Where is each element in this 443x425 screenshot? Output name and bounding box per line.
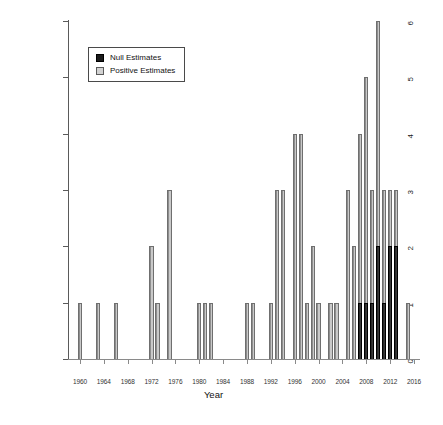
bar-positive-1975 xyxy=(167,190,171,359)
x-axis-tick-label: 1968 xyxy=(121,378,135,385)
x-axis-tick-label: 2008 xyxy=(359,378,373,385)
x-axis-tick-label: 1980 xyxy=(192,378,206,385)
bar-null-2008 xyxy=(364,303,368,359)
y-axis-tick-label: 3 xyxy=(407,190,415,194)
legend-item-null: Null Estimates xyxy=(96,53,175,63)
bar-positive-1989 xyxy=(251,303,255,359)
bar-null-2007 xyxy=(358,303,362,359)
legend-swatch-null-icon xyxy=(96,54,104,62)
y-axis-tick xyxy=(63,246,68,247)
bar-positive-1963 xyxy=(96,303,100,359)
x-axis-tick xyxy=(342,360,343,364)
bar-positive-2000 xyxy=(316,303,320,359)
x-axis-title: Year xyxy=(0,389,443,400)
x-axis-tick xyxy=(152,360,153,364)
x-axis-tick-label: 1960 xyxy=(73,378,87,385)
x-axis-tick-label: 1964 xyxy=(97,378,111,385)
legend-item-positive: Positive Estimates xyxy=(96,66,175,76)
legend: Null Estimates Positive Estimates xyxy=(88,47,185,82)
y-axis-line xyxy=(68,20,69,360)
legend-swatch-positive-icon xyxy=(96,67,104,75)
bar-positive-1994 xyxy=(281,190,285,359)
x-axis-tick xyxy=(271,360,272,364)
x-axis-title-text: Year xyxy=(204,389,223,400)
x-axis-tick-label: 1984 xyxy=(216,378,230,385)
bar-positive-2003 xyxy=(334,303,338,359)
x-axis-tick xyxy=(390,360,391,364)
x-axis-tick xyxy=(295,360,296,364)
bar-positive-1992 xyxy=(269,303,273,359)
bar-positive-1966 xyxy=(114,303,118,359)
bar-null-2010 xyxy=(376,246,380,359)
bar-positive-1982 xyxy=(209,303,213,359)
bar-positive-1999 xyxy=(311,246,315,359)
bar-positive-1993 xyxy=(275,190,279,359)
x-axis-tick xyxy=(366,360,367,364)
bar-null-2009 xyxy=(370,303,374,359)
y-axis-tick-label: 6 xyxy=(407,21,415,25)
x-axis-tick-label: 1988 xyxy=(240,378,254,385)
x-axis-tick-label: 1972 xyxy=(144,378,158,385)
bar-positive-2015 xyxy=(406,303,410,359)
x-axis-tick-label: 1996 xyxy=(288,378,302,385)
x-axis-tick xyxy=(128,360,129,364)
bar-positive-1988 xyxy=(245,303,249,359)
bar-positive-1981 xyxy=(203,303,207,359)
x-axis-tick xyxy=(175,360,176,364)
x-axis-tick xyxy=(319,360,320,364)
x-axis-tick-label: 2004 xyxy=(335,378,349,385)
x-axis-tick xyxy=(104,360,105,364)
x-axis-tick-label: 2012 xyxy=(383,378,397,385)
bar-positive-2005 xyxy=(346,190,350,359)
x-axis-tick xyxy=(414,360,415,364)
bar-positive-1972 xyxy=(149,246,153,359)
bar-positive-1973 xyxy=(155,303,159,359)
x-axis-tick-label: 1992 xyxy=(264,378,278,385)
y-axis-tick xyxy=(63,303,68,304)
bar-positive-2002 xyxy=(328,303,332,359)
bar-positive-1960 xyxy=(78,303,82,359)
bar-null-2013 xyxy=(394,246,398,359)
bar-positive-1996 xyxy=(293,134,297,359)
bar-null-2011 xyxy=(382,303,386,359)
y-axis-tick xyxy=(63,190,68,191)
x-axis-tick-label: 1976 xyxy=(168,378,182,385)
x-axis-tick xyxy=(199,360,200,364)
bar-positive-1980 xyxy=(197,303,201,359)
bar-null-2012 xyxy=(388,246,392,359)
y-axis-tick xyxy=(63,77,68,78)
bar-positive-1998 xyxy=(305,303,309,359)
y-axis-tick-label: 5 xyxy=(407,77,415,81)
y-axis-tick-label: 2 xyxy=(407,246,415,250)
legend-label-positive: Positive Estimates xyxy=(110,66,175,76)
x-axis-tick-label: 2016 xyxy=(407,378,421,385)
y-axis-tick xyxy=(63,134,68,135)
legend-label-null: Null Estimates xyxy=(110,53,161,63)
y-axis-tick xyxy=(63,21,68,22)
bar-positive-1997 xyxy=(299,134,303,359)
bar-chart-figure: Number of Major Studies 0123456 19601964… xyxy=(0,0,443,425)
y-axis-title: Number of Major Studies xyxy=(0,0,26,425)
x-axis-tick xyxy=(247,360,248,364)
y-axis-tick-label: 4 xyxy=(407,134,415,138)
x-axis-tick-label: 2000 xyxy=(312,378,326,385)
x-axis-tick xyxy=(223,360,224,364)
x-axis-tick xyxy=(80,360,81,364)
bar-positive-2006 xyxy=(352,246,356,359)
